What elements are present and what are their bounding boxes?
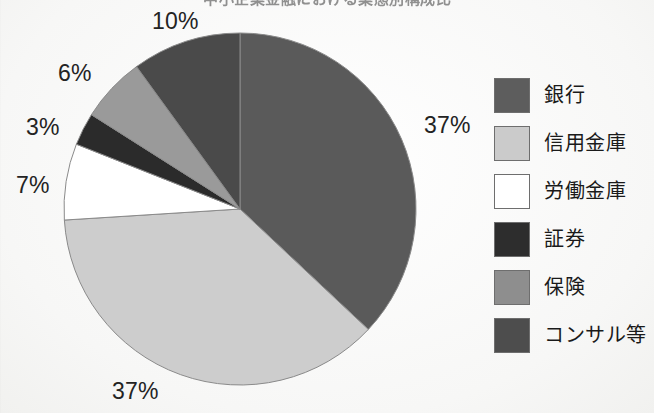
legend-label-bank: 銀行	[544, 85, 585, 105]
legend-label-shinkin: 信用金庫	[544, 133, 626, 153]
pie-slice-group	[64, 33, 416, 385]
legend-item-bank[interactable]: 銀行	[494, 77, 652, 113]
legend-swatch-insurance	[494, 270, 530, 305]
legend-swatch-consulting	[494, 318, 530, 353]
legend-item-insurance[interactable]: 保険	[494, 269, 652, 305]
pie-label-bank: 37%	[424, 112, 471, 139]
legend-item-shinkin[interactable]: 信用金庫	[494, 125, 652, 161]
legend-label-consulting: コンサル等	[544, 325, 647, 345]
legend-swatch-rodo	[494, 174, 530, 209]
legend-swatch-securities	[494, 222, 530, 257]
pie-chart-figure: 中小企業金融における業態別構成比 37% 37% 7% 3% 6% 10% 銀行…	[0, 0, 654, 413]
pie-label-rodo: 7%	[16, 172, 50, 199]
legend-label-rodo: 労働金庫	[544, 181, 626, 201]
legend-label-securities: 証券	[544, 229, 585, 249]
pie-label-consulting: 10%	[152, 8, 199, 35]
legend-label-insurance: 保険	[544, 277, 585, 297]
legend-item-consulting[interactable]: コンサル等	[494, 317, 652, 353]
pie-label-insurance: 6%	[58, 60, 92, 87]
legend: 銀行 信用金庫 労働金庫 証券 保険 コンサル等	[494, 77, 652, 353]
legend-swatch-bank	[494, 78, 530, 113]
legend-swatch-shinkin	[494, 126, 530, 161]
legend-item-securities[interactable]: 証券	[494, 221, 652, 257]
pie-label-securities: 3%	[26, 114, 60, 141]
legend-item-rodo[interactable]: 労働金庫	[494, 173, 652, 209]
pie-label-shinkin: 37%	[112, 378, 159, 405]
